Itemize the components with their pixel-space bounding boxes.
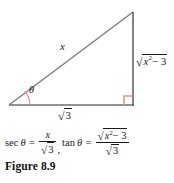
radicand: x2− 3 — [142, 54, 167, 67]
sec-denominator: √3 — [39, 142, 56, 156]
radicand-rest: − 3 — [152, 55, 166, 67]
sec-theta-symbol: θ — [20, 137, 25, 148]
sec-fraction: x √3 — [39, 129, 56, 155]
radical-sqrt-x2-minus-3: √x2− 3 — [98, 128, 128, 141]
radical-sqrt-x2-minus-3: √x2− 3 — [136, 54, 167, 67]
radical-sqrt3-base: √3 — [58, 108, 72, 121]
tan-denominator: √3 — [104, 143, 121, 157]
radical-sign-icon: √ — [98, 130, 104, 142]
radical-sqrt3: √3 — [41, 142, 54, 155]
right-angle-marker-icon — [124, 96, 133, 105]
radicand-rest: − 3 — [113, 130, 127, 141]
formula-separator-comma: , — [57, 144, 60, 156]
hypotenuse-label: x — [60, 41, 65, 52]
triangle-hypotenuse-line — [9, 12, 133, 105]
tan-function-label: tan — [62, 137, 75, 148]
tan-fraction: √x2− 3 √3 — [96, 128, 130, 157]
theta-angle-label: θ — [29, 85, 34, 96]
vertical-leg-label: √x2− 3 — [136, 54, 167, 67]
formula-line: sec θ = x √3 , tan θ = √x2 — [5, 128, 174, 157]
base-label: √3 — [58, 108, 72, 121]
sec-formula: sec θ = x √3 , — [5, 129, 62, 155]
radicand: 3 — [64, 108, 72, 121]
tan-formula: tan θ = √x2− 3 √3 — [62, 128, 130, 157]
radical-sign-icon: √ — [41, 144, 47, 156]
sec-equals-sign: = — [29, 137, 35, 148]
sec-numerator: x — [43, 129, 52, 141]
radical-sign-icon: √ — [58, 110, 65, 122]
radical-sign-icon: √ — [106, 146, 112, 158]
tan-theta-symbol: θ — [77, 137, 82, 148]
right-triangle-diagram: x θ √3 √x2− 3 — [0, 0, 174, 128]
radicand: 3 — [111, 144, 119, 157]
radical-sqrt3: √3 — [106, 144, 119, 157]
radicand: 3 — [47, 142, 55, 155]
radical-sign-icon: √ — [136, 56, 143, 68]
tan-equals-sign: = — [86, 137, 92, 148]
sec-function-label: sec — [5, 137, 18, 148]
radicand: x2− 3 — [103, 128, 127, 141]
tan-numerator: √x2− 3 — [96, 128, 130, 142]
figure-caption: Figure 8.9 — [5, 160, 56, 172]
figure-8-9: x θ √3 √x2− 3 sec θ = x — [0, 0, 174, 183]
